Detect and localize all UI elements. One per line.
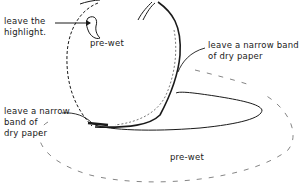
label-prewet-apple: pre-wet [90,38,124,49]
dry-band-left-mark [88,123,108,125]
apple-diagram: leave the highlight. pre-wet leave a nar… [0,0,303,187]
dry-band-right [115,30,176,125]
right-band-leader [178,48,205,72]
label-leave-highlight: leave the highlight. [4,16,46,38]
highlight-shape [87,17,101,39]
apple-stem [138,2,155,20]
label-left-dry-band: leave a narrow band of dry paper [4,106,70,139]
label-right-dry-band: leave a narrow band of dry paper [208,40,299,62]
apple-right-outline [95,2,180,127]
ground-prewet-outline [39,70,293,182]
apple-left-outline [67,3,98,126]
label-prewet-ground: pre-wet [170,152,204,163]
shadow-outline [95,92,262,130]
